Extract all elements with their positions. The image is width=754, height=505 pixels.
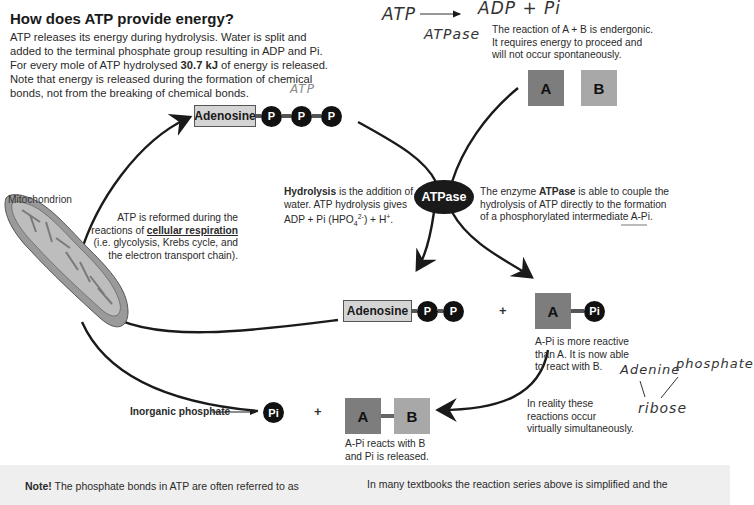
handwritten-adenine: Adenine <box>620 362 680 377</box>
intermediate-bond <box>571 309 584 313</box>
handwritten-equation-right: ADP + Pi <box>478 0 561 18</box>
phosphate-ball: P <box>417 301 438 322</box>
handwritten-enzyme: ATPase <box>424 26 480 42</box>
reactant-a-box: A <box>528 70 564 106</box>
intermediate-note: A-Pi is more reactive than A. It is now … <box>535 336 629 374</box>
plus-sign: + <box>314 404 322 419</box>
adenosine-box: Adenosine <box>343 300 412 322</box>
phosphate-ball: P <box>291 106 312 127</box>
handwritten-equation-left: ATP <box>382 4 416 24</box>
page-title: How does ATP provide energy? <box>10 10 234 27</box>
respiration-note: ATP is reformed during the reactions of … <box>88 212 238 262</box>
reactant-b-box: B <box>581 70 617 106</box>
plus-sign: + <box>499 303 507 318</box>
product-ab: A B <box>345 398 430 434</box>
mitochondrion-label: Mitochondrion <box>8 194 72 207</box>
handwritten-phosphate: phosphate <box>676 356 754 371</box>
handwritten-ribose: ribose <box>638 400 687 416</box>
intro-paragraph: ATP releases its energy during hydrolysi… <box>10 30 370 100</box>
product-a-box: A <box>345 398 381 434</box>
product-note: A-Pi reacts with B and Pi is released. <box>345 438 429 463</box>
hydrolysis-note: Hydrolysis is the addition of water. ATP… <box>284 186 413 231</box>
endergonic-note: The reaction of A + B is endergonic. It … <box>492 24 653 62</box>
phosphate-bond <box>282 114 291 118</box>
footer-note-box: Note! The phosphate bonds in ATP are oft… <box>0 465 730 505</box>
product-bond <box>381 414 394 418</box>
phosphorylated-intermediate: A Pi <box>535 293 605 329</box>
adenosine-box: Adenosine <box>194 105 256 127</box>
atp-molecule: Adenosine P P P <box>194 105 342 127</box>
pi-ball: Pi <box>584 301 605 322</box>
adp-molecule: Adenosine P P <box>343 300 464 322</box>
phosphate-ball: P <box>321 106 342 127</box>
inorganic-phosphate-label: Inorganic phosphate <box>130 406 230 419</box>
phosphate-ball: P <box>443 301 464 322</box>
atpase-note: The enzyme ATPase is able to couple the … <box>480 186 669 224</box>
released-pi-ball: Pi <box>263 402 284 423</box>
product-b-box: B <box>394 398 430 434</box>
phosphate-bond <box>312 114 321 118</box>
intermediate-a-box: A <box>535 293 571 329</box>
handwritten-atp-label: ATP <box>290 82 315 96</box>
simultaneous-note: In reality these reactions occur virtual… <box>527 398 634 436</box>
atpase-enzyme: ATPase <box>414 180 474 214</box>
footer-note-left: Note! The phosphate bonds in ATP are oft… <box>25 480 299 493</box>
phosphate-ball: P <box>261 106 282 127</box>
footer-note-right: In many textbooks the reaction series ab… <box>367 478 668 491</box>
